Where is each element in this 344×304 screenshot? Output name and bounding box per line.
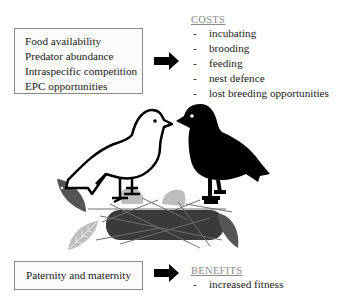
cost-item-label: nest defence (209, 71, 265, 86)
dash: - (191, 86, 209, 101)
cost-item: -brooding (191, 41, 329, 56)
dash: - (191, 277, 209, 292)
cost-item: -incubating (191, 26, 329, 41)
right-arrow-icon (154, 264, 180, 282)
cost-item: -feeding (191, 56, 329, 71)
cost-item: -nest defence (191, 71, 329, 86)
benefit-item: -increased fitness (191, 277, 283, 292)
benefits-list: BENEFITS -increased fitness (191, 264, 283, 292)
dash: - (191, 71, 209, 86)
parental-box-label: Paternity and maternity (26, 268, 131, 283)
factors-box: Food availability Predator abundance Int… (14, 28, 143, 94)
black-bird-icon (176, 104, 270, 202)
nest-icon (106, 210, 224, 240)
dash: - (191, 56, 209, 71)
costs-list: COSTS -incubating -brooding -feeding -ne… (191, 13, 329, 101)
cost-item-label: feeding (209, 56, 243, 71)
factor-item: Predator abundance (25, 49, 142, 64)
cost-item-label: lost breeding opportunities (209, 86, 329, 101)
white-bird-icon (66, 110, 172, 202)
factor-item: Intraspecific competition (25, 64, 142, 79)
factor-item: Food availability (25, 34, 142, 49)
benefits-heading: BENEFITS (191, 264, 283, 277)
costs-heading: COSTS (191, 13, 329, 26)
birds-and-nest-illustration (40, 100, 310, 255)
cost-item: -lost breeding opportunities (191, 86, 329, 101)
benefit-item-label: increased fitness (209, 277, 283, 292)
dash: - (191, 41, 209, 56)
factor-item: EPC opportunities (25, 79, 142, 94)
right-arrow-icon (154, 52, 180, 70)
leaf-light-left-icon (68, 221, 98, 250)
parental-box: Paternity and maternity (14, 261, 143, 290)
dash: - (191, 26, 209, 41)
cost-item-label: incubating (209, 26, 256, 41)
cost-item-label: brooding (209, 41, 249, 56)
